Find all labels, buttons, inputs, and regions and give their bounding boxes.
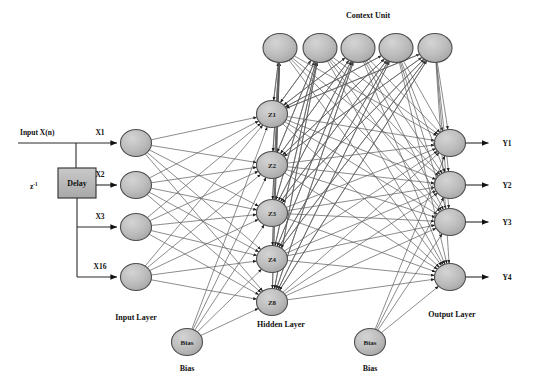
hidden-node-4[interactable] <box>257 246 288 273</box>
output-node-3[interactable] <box>435 209 466 236</box>
output-signal-label-1: Y1 <box>502 139 511 148</box>
edge-context-output-2-4 <box>327 61 443 265</box>
hidden-node-3[interactable] <box>257 200 288 227</box>
edges-input-to-hidden <box>145 117 263 299</box>
edge-input-hidden-4-2 <box>147 174 260 267</box>
output-layer-nodes <box>435 130 466 291</box>
edge-context-hidden-3-3 <box>278 61 351 200</box>
input-layer-nodes <box>121 130 152 291</box>
edge-bias-left-hidden-1-5 <box>201 308 259 335</box>
bias-left-caption: Bias <box>180 364 195 373</box>
edge-input-hidden-1-2 <box>151 145 257 162</box>
edge-context-hidden-2-3 <box>276 62 316 200</box>
input-signal-label-3: X3 <box>95 212 104 221</box>
output-signal-label-3: Y3 <box>502 218 511 227</box>
edge-hidden-output-5-3 <box>286 228 436 296</box>
edge-context-hidden-4-1 <box>285 56 381 107</box>
edge-input-hidden-2-3 <box>151 188 257 210</box>
output-layer-caption: Output Layer <box>428 310 476 319</box>
edge-input-hidden-1-4 <box>147 152 261 249</box>
output-signal-label-4: Y4 <box>502 273 511 282</box>
neural-network-diagram: Delay Input X(n) z-1 Z1Z2Z3Z4Z8 BiasBias… <box>0 0 537 387</box>
bias-node-2[interactable] <box>355 329 386 356</box>
input-node-4[interactable] <box>121 264 152 291</box>
network-svg-canvas: Delay Input X(n) z-1 Z1Z2Z3Z4Z8 BiasBias… <box>0 0 537 387</box>
edge-hidden-output-5-4 <box>287 279 434 300</box>
edge-hidden-output-3-3 <box>287 214 434 221</box>
input-node-1[interactable] <box>121 130 152 157</box>
input-signal-label-4: X16 <box>94 262 107 271</box>
context-unit-nodes <box>263 34 452 63</box>
output-signal-label-2: Y2 <box>502 181 511 190</box>
delay-block-label: Delay <box>67 179 87 188</box>
edge-bias-left-hidden-1-3 <box>195 225 265 331</box>
delay-operator-label: z-1 <box>30 181 38 191</box>
edge-context-hidden-4-2 <box>283 59 385 155</box>
input-source-label: Input X(n) <box>20 128 55 137</box>
context-node-5[interactable] <box>418 34 452 63</box>
output-node-4[interactable] <box>435 264 466 291</box>
edge-hidden-output-2-1 <box>287 145 434 163</box>
hidden-node-2[interactable] <box>257 152 288 179</box>
output-signal-paths <box>466 143 489 277</box>
bias-nodes: BiasBias <box>172 329 386 356</box>
edge-input-hidden-4-4 <box>151 261 256 275</box>
hidden-layer-nodes: Z1Z2Z3Z4Z8 <box>257 101 288 316</box>
input-signal-label-1: X1 <box>95 128 104 137</box>
edge-context-hidden-3-5 <box>276 62 353 289</box>
edge-hidden-output-4-4 <box>287 261 434 276</box>
bias-right-caption: Bias <box>363 364 378 373</box>
context-node-3[interactable] <box>341 34 375 63</box>
hidden-node-1[interactable] <box>257 101 288 128</box>
input-layer-caption: Input Layer <box>115 313 157 322</box>
context-node-4[interactable] <box>379 34 413 63</box>
edge-input-hidden-3-3 <box>151 215 256 226</box>
output-node-2[interactable] <box>435 172 466 199</box>
context-node-1[interactable] <box>263 34 297 63</box>
edge-input-hidden-1-5 <box>145 154 262 291</box>
edge-hidden-output-1-3 <box>285 122 438 215</box>
edge-context-hidden-3-4 <box>277 62 352 247</box>
edge-hidden-output-1-4 <box>283 124 440 267</box>
hidden-layer-caption: Hidden Layer <box>257 320 305 329</box>
input-node-3[interactable] <box>121 214 152 241</box>
output-node-1[interactable] <box>435 130 466 157</box>
edge-context-output-2-3 <box>329 60 441 210</box>
context-unit-caption: Context Unit <box>346 11 391 20</box>
edge-hidden-output-5-2 <box>284 193 437 294</box>
hidden-node-5[interactable] <box>257 289 288 316</box>
context-node-2[interactable] <box>303 34 337 63</box>
edge-hidden-output-5-1 <box>283 153 439 293</box>
bias-node-1[interactable] <box>172 329 203 356</box>
edge-context-output-1-2 <box>292 58 438 176</box>
input-signal-label-2: X2 <box>95 170 104 179</box>
edge-hidden-output-4-3 <box>287 225 435 256</box>
input-node-2[interactable] <box>121 172 152 199</box>
edge-input-hidden-1-1 <box>151 117 257 140</box>
input-signal-path: Delay Input X(n) z-1 <box>18 128 117 277</box>
